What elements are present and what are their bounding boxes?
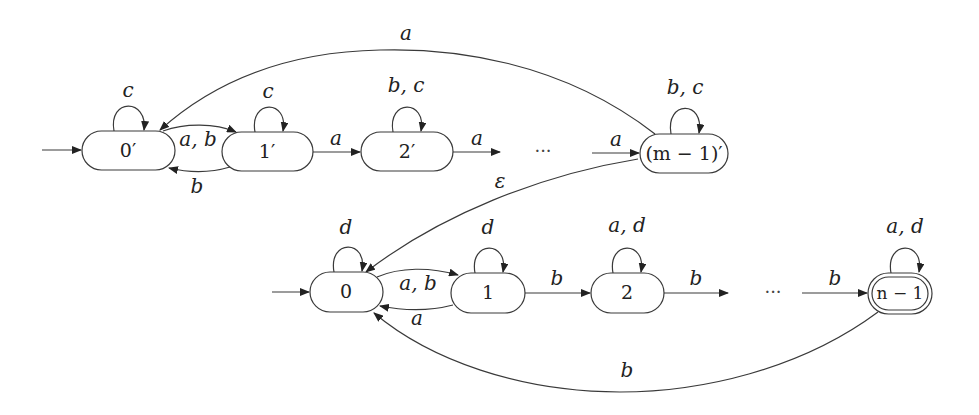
self-loop-1 <box>474 248 503 273</box>
edge-0p-1p-label: a, b <box>179 127 216 151</box>
edge-1-0-label: a <box>411 306 423 330</box>
automaton-diagram: 0′ 1′ 2′ (m − 1)′ c c b, c b, c a, b b a… <box>0 0 979 415</box>
edge-ellipsis-m-minus-1-p-label: a <box>610 127 622 151</box>
self-loop-0 <box>333 247 362 272</box>
self-loop-0p <box>113 106 144 131</box>
edge-0-1-label: a, b <box>399 271 436 295</box>
ellipsis-top: ··· <box>534 140 551 161</box>
state-0p-label: 0′ <box>120 139 136 161</box>
self-loop-2p-label: b, c <box>388 73 425 97</box>
state-n-minus-1-label: n − 1 <box>877 283 924 303</box>
state-0-label: 0 <box>340 280 352 302</box>
self-loop-2-label: a, d <box>608 213 645 237</box>
self-loop-2p <box>392 107 421 132</box>
self-loop-m-minus-1-p-label: b, c <box>667 75 704 99</box>
edge-2p-ellipsis-label: a <box>471 126 483 150</box>
edge-1p-0p-label: b <box>191 174 204 198</box>
state-m-minus-1-p-label: (m − 1)′ <box>645 142 722 164</box>
self-loop-1p <box>254 107 283 132</box>
ellipsis-bottom: ··· <box>764 281 781 302</box>
state-2-label: 2 <box>621 281 633 303</box>
self-loop-m-minus-1-p <box>670 108 699 134</box>
edge-2-ellipsis-label: b <box>690 266 703 290</box>
self-loop-n-minus-1-label: a, d <box>886 214 923 238</box>
self-loop-n-minus-1 <box>890 248 919 273</box>
edge-epsilon-label: ε <box>495 169 506 193</box>
self-loop-0-label: d <box>340 215 353 239</box>
state-1p-label: 1′ <box>259 140 275 162</box>
edge-m-minus-1-p-0p-label: a <box>400 21 412 45</box>
edge-1p-0p <box>169 167 230 172</box>
state-2p-label: 2′ <box>399 140 415 162</box>
state-1-label: 1 <box>482 281 494 303</box>
self-loop-0p-label: c <box>122 78 133 102</box>
edge-ellipsis-n-minus-1-label: b <box>829 266 842 290</box>
edge-n-minus-1-0-label: b <box>621 358 634 382</box>
edge-1-2-label: b <box>551 266 564 290</box>
self-loop-1p-label: c <box>262 79 273 103</box>
self-loop-2 <box>612 248 641 273</box>
self-loop-1-label: d <box>482 215 495 239</box>
edge-1p-2p-label: a <box>330 126 342 150</box>
